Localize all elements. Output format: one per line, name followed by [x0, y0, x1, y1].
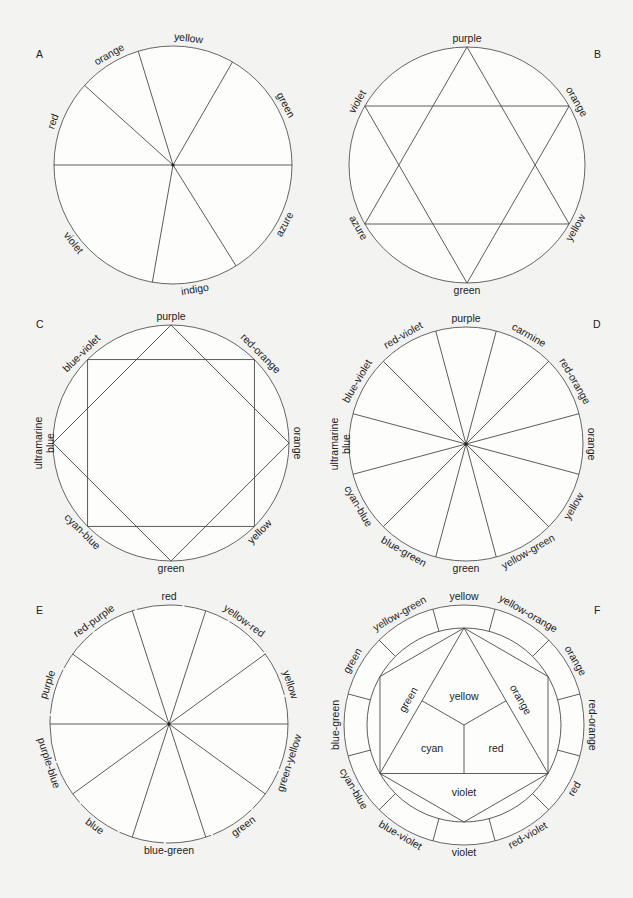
color-label: blue-green	[144, 844, 194, 856]
inner-color-label: violet	[452, 786, 477, 798]
inner-color-label: cyan	[421, 742, 443, 754]
panel-letter: B	[594, 48, 601, 60]
color-label: orange	[292, 427, 304, 460]
center-dot	[171, 163, 174, 166]
panel-letter: F	[594, 604, 600, 616]
color-label: red	[161, 590, 176, 602]
color-label: purple	[156, 310, 185, 322]
color-label: violet	[452, 846, 477, 858]
color-label: red-orange	[587, 699, 599, 751]
panel-c: Cpurplered-orangeorangeyellowgreencyan-b…	[32, 310, 304, 574]
panel-letter: D	[593, 318, 601, 330]
panel-a: Ayellowgreenazureindigovioletredorange	[36, 30, 298, 297]
panel-f: Fyellowcyanredvioletgreenorangeyellowyel…	[329, 590, 601, 858]
wheel-circle	[349, 47, 585, 283]
color-label: orange	[586, 428, 598, 461]
panel-d: Dpurplecarminered-orangeorangeyellowyell…	[328, 312, 601, 574]
diagram-canvas: AyellowgreenazureindigovioletredorangeBp…	[0, 0, 633, 898]
color-wheel-figure: AyellowgreenazureindigovioletredorangeBp…	[0, 0, 633, 898]
inner-color-label: red	[488, 742, 503, 754]
panel-letter: C	[36, 318, 44, 330]
panel-letter: E	[36, 604, 43, 616]
color-label: purple	[451, 312, 480, 324]
color-label: purple	[452, 32, 481, 44]
color-label: green	[158, 562, 185, 574]
color-label: yellow	[449, 590, 479, 602]
center-dot	[464, 442, 467, 445]
color-label: blue-green	[329, 700, 341, 750]
inner-color-label: yellow	[449, 690, 479, 702]
wheel-circle	[53, 325, 289, 561]
panel-e: Eredyellow-redyellowgreen-yellowgreenblu…	[36, 590, 304, 856]
color-label: red	[44, 112, 61, 131]
panel-letter: A	[36, 48, 43, 60]
color-label: green	[454, 284, 481, 296]
color-label: ultramarineblue	[32, 417, 56, 470]
center-dot	[167, 722, 170, 725]
panel-b: Bpurpleorangeyellowgreenazureviolet	[346, 32, 602, 296]
color-label: green	[453, 562, 480, 574]
color-label: yellow	[173, 30, 204, 46]
color-label: ultramarineblue	[328, 418, 352, 471]
